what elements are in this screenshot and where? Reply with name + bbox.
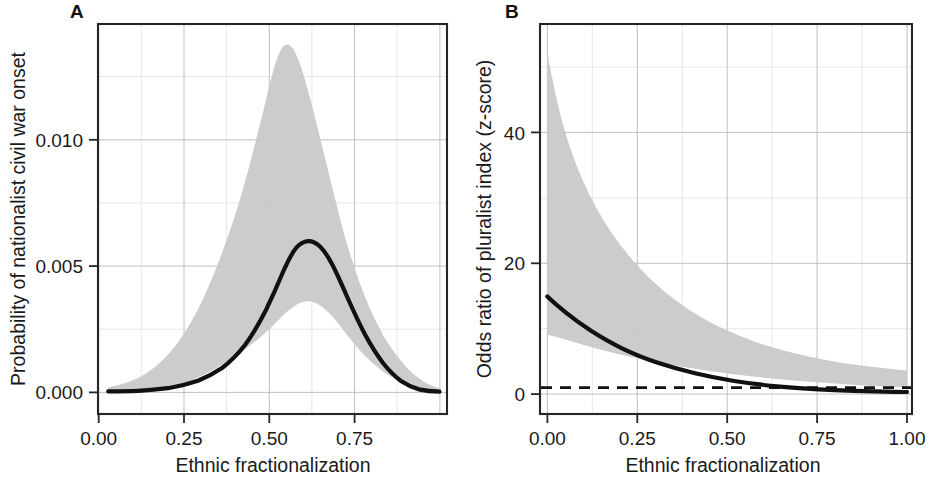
panel-b-plot-area [540, 24, 912, 414]
panel-a-svg: A Probability of nationalist civil war o… [0, 0, 465, 480]
panel-a-confidence-band [108, 44, 439, 392]
panel-a-ytick-1: 0.005 [35, 256, 83, 277]
panel-b-xtick-3: 0.75 [799, 428, 836, 449]
panel-b-x-axis-title: Ethnic fractionalization [625, 454, 820, 476]
panel-a-ytick-0: 0.000 [35, 382, 83, 403]
panel-a-ytick-2: 0.010 [35, 130, 83, 151]
panel-a-xtick-3: 0.75 [336, 428, 373, 449]
panel-b-x-ticks [547, 414, 907, 423]
panel-b-ytick-1: 20 [504, 253, 525, 274]
panel-b-xtick-2: 0.50 [709, 428, 746, 449]
panel-a-letter: A [70, 1, 84, 22]
panel-b-xtick-4: 1.00 [889, 428, 926, 449]
panel-b-y-ticks [531, 132, 540, 394]
panel-b-letter: B [505, 1, 519, 22]
panel-a-y-axis-title: Probability of nationalist civil war ons… [7, 52, 29, 386]
chart-panel-b: B Odds ratio of pluralist index (z-score… [465, 0, 930, 480]
panel-a-x-ticks [99, 414, 355, 423]
panel-a-plot-area [98, 24, 447, 414]
panel-a-xtick-1: 0.25 [166, 428, 203, 449]
figure-container: A Probability of nationalist civil war o… [0, 0, 930, 480]
panel-a-xtick-0: 0.00 [80, 428, 117, 449]
panel-b-ytick-2: 40 [504, 123, 525, 144]
panel-a-y-ticks [89, 140, 98, 393]
panel-b-y-axis-title: Odds ratio of pluralist index (z-score) [473, 60, 495, 379]
chart-panel-a: A Probability of nationalist civil war o… [0, 0, 465, 480]
panel-b-xtick-0: 0.00 [529, 428, 566, 449]
panel-a-xtick-2: 0.50 [251, 428, 288, 449]
panel-b-svg: B Odds ratio of pluralist index (z-score… [465, 0, 930, 480]
panel-b-ytick-0: 0 [514, 384, 525, 405]
panel-b-xtick-1: 0.25 [619, 428, 656, 449]
panel-a-x-axis-title: Ethnic fractionalization [175, 454, 370, 476]
